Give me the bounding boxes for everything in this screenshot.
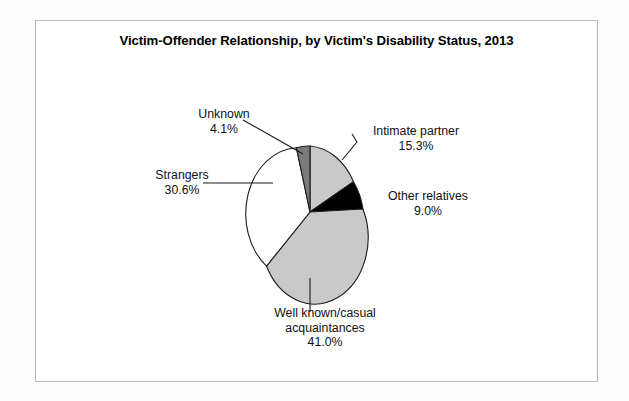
pie-label-acquaintances-name: Well known/casual acquaintances (268, 306, 382, 335)
pie-label-unknown-name: Unknown (178, 107, 270, 122)
pie-label-unknown: Unknown 4.1% (178, 107, 270, 136)
pie-label-strangers-name: Strangers (130, 168, 234, 183)
pie-label-intimate-partner-name: Intimate partner (355, 124, 477, 139)
pie-label-other-relatives-value: 9.0% (372, 204, 484, 219)
pie-label-strangers: Strangers 30.6% (130, 168, 234, 197)
scanned-page-background: Victim-Offender Relationship, by Victim'… (0, 0, 629, 401)
pie-label-other-relatives-name: Other relatives (372, 189, 484, 204)
pie-label-intimate-partner: Intimate partner 15.3% (355, 124, 477, 153)
pie-label-acquaintances-value: 41.0% (268, 335, 382, 350)
pie-label-strangers-value: 30.6% (130, 183, 234, 198)
pie-label-unknown-value: 4.1% (178, 122, 270, 137)
pie-label-other-relatives: Other relatives 9.0% (372, 189, 484, 218)
pie-label-acquaintances: Well known/casual acquaintances 41.0% (268, 306, 382, 350)
pie-label-intimate-partner-value: 15.3% (355, 139, 477, 154)
